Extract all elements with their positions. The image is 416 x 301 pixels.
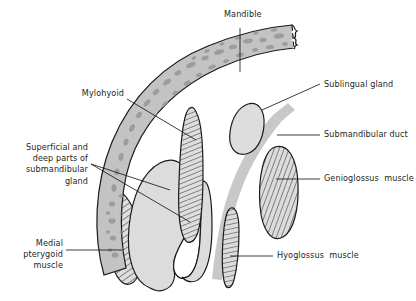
label-submandibular-duct: Submandibular duct <box>324 129 408 140</box>
label-mandible: Mandible <box>224 9 262 20</box>
label-hyoglossus-muscle: Hyoglossus muscle <box>277 250 359 261</box>
label-mylohyoid: Mylohyoid <box>0 88 124 99</box>
label-sublingual-gland: Sublingual gland <box>324 79 393 90</box>
label-medial-pterygoid-muscle: Medial pterygoid muscle <box>0 238 63 272</box>
hyoglossus-muscle-body <box>223 208 240 288</box>
label-genioglossus-muscle: Genioglossus muscle <box>324 173 414 184</box>
genioglossus-muscle-body <box>260 146 299 238</box>
mylohyoid-muscle <box>179 107 203 242</box>
anatomical-figure: Mandible Mylohyoid Sublingual gland Subm… <box>0 0 416 301</box>
label-submandibular-gland: Superficial and deep parts of submandibu… <box>0 142 88 187</box>
